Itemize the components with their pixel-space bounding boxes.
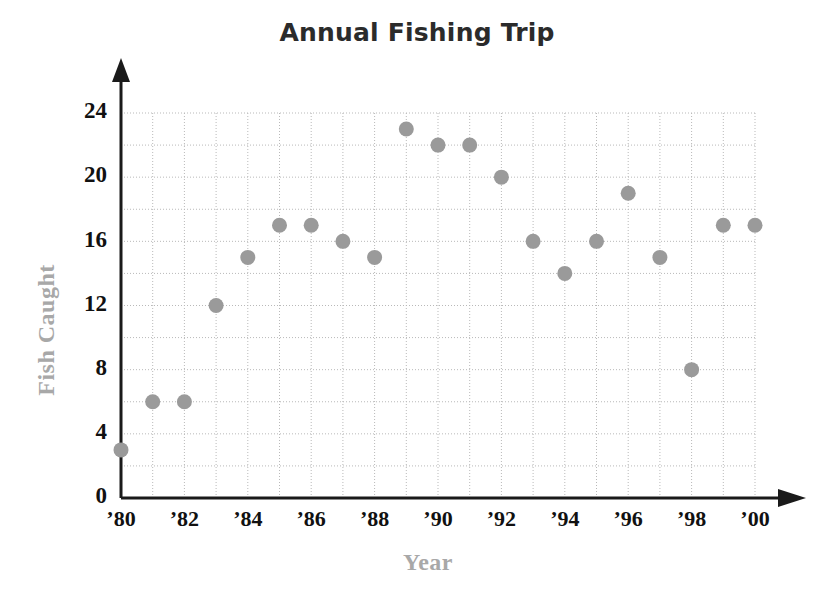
x-tick-label: ’86 bbox=[297, 506, 326, 531]
data-point bbox=[145, 394, 160, 409]
data-point bbox=[652, 250, 667, 265]
x-tick-label: ’94 bbox=[550, 506, 579, 531]
y-tick-label: 4 bbox=[96, 419, 108, 444]
scatter-plot: 04812162024 ’80’82’84’86’88’90’92’94’96’… bbox=[0, 0, 834, 603]
data-point bbox=[684, 362, 699, 377]
y-tick-label: 12 bbox=[84, 291, 107, 316]
data-point bbox=[304, 218, 319, 233]
y-tick-label: 8 bbox=[96, 355, 108, 380]
x-tick-label: ’98 bbox=[677, 506, 706, 531]
data-point bbox=[557, 266, 572, 281]
data-point bbox=[526, 234, 541, 249]
data-point bbox=[494, 170, 509, 185]
y-tick-label: 16 bbox=[84, 227, 107, 252]
data-point bbox=[716, 218, 731, 233]
x-axis-tick-labels: ’80’82’84’86’88’90’92’94’96’98’00 bbox=[106, 506, 769, 531]
y-axis-tick-labels: 04812162024 bbox=[84, 98, 108, 508]
data-point bbox=[177, 394, 192, 409]
x-tick-label: ’88 bbox=[360, 506, 389, 531]
x-tick-label: ’82 bbox=[170, 506, 199, 531]
data-point bbox=[114, 442, 129, 457]
data-point bbox=[748, 218, 763, 233]
horizontal-gridlines bbox=[121, 113, 755, 466]
y-tick-label: 20 bbox=[84, 162, 107, 187]
y-axis-title: Fish Caught bbox=[33, 264, 59, 396]
x-tick-label: ’92 bbox=[487, 506, 516, 531]
x-tick-label: ’90 bbox=[423, 506, 452, 531]
data-point bbox=[240, 250, 255, 265]
data-point bbox=[462, 138, 477, 153]
data-point bbox=[431, 138, 446, 153]
x-tick-label: ’80 bbox=[106, 506, 135, 531]
data-point bbox=[335, 234, 350, 249]
data-point bbox=[621, 186, 636, 201]
data-point bbox=[209, 298, 224, 313]
y-tick-label: 0 bbox=[96, 483, 108, 508]
data-point bbox=[589, 234, 604, 249]
y-tick-label: 24 bbox=[84, 98, 108, 123]
data-point bbox=[399, 122, 414, 137]
chart-container: Annual Fishing Trip 04812162024 ’80’82’8… bbox=[0, 0, 834, 603]
data-point bbox=[272, 218, 287, 233]
x-tick-label: ’96 bbox=[614, 506, 643, 531]
x-tick-label: ’84 bbox=[233, 506, 262, 531]
x-axis-title: Year bbox=[403, 549, 453, 575]
data-point bbox=[367, 250, 382, 265]
x-tick-label: ’00 bbox=[740, 506, 769, 531]
